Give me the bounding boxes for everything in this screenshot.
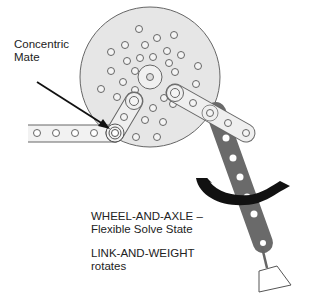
- disk-hole: [132, 68, 139, 75]
- disk-hole: [142, 42, 149, 49]
- disk-hole: [150, 54, 157, 61]
- disk-hole: [122, 42, 129, 49]
- wheel-and-axle-label: WHEEL-AND-AXLE – Flexible Solve State: [91, 210, 203, 236]
- disk-hole: [108, 68, 115, 75]
- concentric-mate-label: Concentric Mate: [14, 38, 69, 64]
- disk-hole: [154, 134, 161, 141]
- link-hole: [237, 174, 244, 181]
- label-line: LINK-AND-WEIGHT: [91, 247, 195, 260]
- disk-hole: [133, 134, 140, 141]
- disk-hole: [120, 79, 127, 86]
- link-hole: [223, 135, 230, 142]
- disk-hole: [164, 48, 171, 55]
- disk-hole: [108, 49, 115, 56]
- disk-hole: [142, 117, 149, 124]
- disk-hole: [98, 86, 105, 93]
- disk-hole: [178, 52, 185, 59]
- disk-hole: [124, 58, 131, 65]
- link-and-weight-label: LINK-AND-WEIGHT rotates: [91, 247, 195, 273]
- disk-hole: [166, 60, 173, 67]
- link-hole: [230, 155, 237, 162]
- label-line: rotates: [91, 260, 195, 273]
- link-hole: [251, 211, 258, 218]
- disk-hole: [195, 63, 202, 70]
- label-line: Concentric: [14, 38, 69, 51]
- label-line: WHEEL-AND-AXLE –: [91, 210, 203, 223]
- label-line: Mate: [14, 51, 69, 64]
- disk-hole: [160, 119, 167, 126]
- disk-hole: [172, 69, 179, 76]
- concentric-mate-pivot: [106, 124, 124, 142]
- disk-hole: [136, 26, 143, 33]
- disk-hole: [114, 94, 121, 101]
- disk-hole: [171, 32, 178, 39]
- disk-hole: [154, 35, 161, 42]
- disk-hole: [137, 55, 144, 62]
- label-line: Flexible Solve State: [91, 223, 203, 236]
- disk-hole: [150, 105, 157, 112]
- disk-hole: [193, 81, 200, 88]
